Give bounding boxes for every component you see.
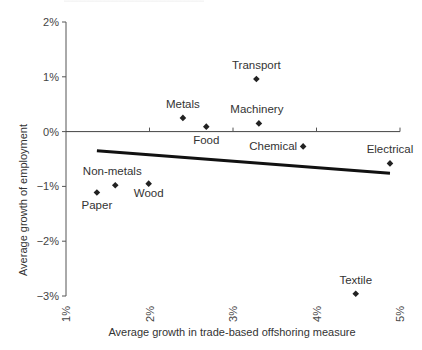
x-axis-title: Average growth in trade-based offshoring… — [108, 326, 355, 338]
y-tick-label: 1% — [43, 71, 59, 83]
y-axis-title: Average growth of employment — [17, 124, 29, 276]
diamond-marker-icon — [352, 291, 359, 298]
diamond-marker-icon — [180, 115, 187, 122]
point-label: Paper — [82, 199, 113, 211]
diamond-marker-icon — [387, 160, 394, 167]
y-axis: 2%1%0%−1%−2%−3% — [37, 16, 66, 302]
y-tick-label: −2% — [37, 235, 60, 247]
point-label: Electrical — [367, 143, 414, 155]
y-tick-label: −1% — [37, 180, 60, 192]
point-label: Transport — [232, 59, 282, 71]
point-label: Chemical — [249, 140, 297, 152]
diamond-marker-icon — [256, 120, 263, 127]
x-tick-label: 5% — [394, 306, 406, 322]
y-tick-label: 0% — [43, 126, 59, 138]
diamond-marker-icon — [112, 182, 119, 189]
point-label: Machinery — [230, 103, 283, 115]
diamond-marker-icon — [94, 189, 101, 196]
x-tick-label: 3% — [227, 306, 239, 322]
x-tick-label: 1% — [60, 306, 72, 322]
point-label: Textile — [339, 274, 372, 286]
y-tick-label: −3% — [37, 290, 60, 302]
point-label: Wood — [134, 187, 164, 199]
diamond-marker-icon — [253, 76, 260, 83]
x-tick-label: 2% — [144, 306, 156, 322]
y-tick-label: 2% — [43, 16, 59, 28]
data-points: PaperNon-metalsWoodMetalsFoodTransportMa… — [82, 59, 414, 297]
x-tick-label: 4% — [311, 306, 323, 322]
diamond-marker-icon — [300, 143, 307, 150]
point-label: Metals — [166, 98, 200, 110]
diamond-marker-icon — [203, 123, 210, 130]
point-label: Food — [193, 134, 219, 146]
scatter-chart: 2%1%0%−1%−2%−3% 1%2%3%4%5% PaperNon-meta… — [0, 0, 422, 350]
point-label: Non-metals — [83, 165, 142, 177]
